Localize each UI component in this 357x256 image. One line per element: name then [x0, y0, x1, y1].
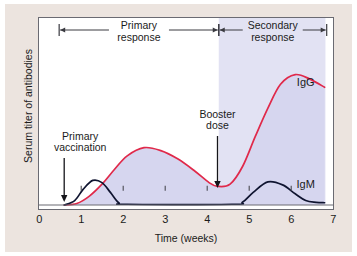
- secondary-phase-label-line2: response: [251, 31, 294, 43]
- booster-dose-label-line2: dose: [206, 119, 229, 131]
- secondary-phase-label-line1: Secondary: [248, 19, 299, 31]
- primary-phase-label-line2: response: [117, 31, 160, 43]
- primary-phase-label-line1: Primary: [121, 19, 158, 31]
- primary-vaccination-arrow-icon: [61, 195, 67, 202]
- primary-vaccination-label-line2: vaccination: [54, 141, 107, 153]
- igg-area: [64, 74, 324, 205]
- chart-canvas: IgGIgMPrimaryresponseSecondaryresponsePr…: [39, 18, 333, 209]
- figure-root: IgGIgMPrimaryresponseSecondaryresponsePr…: [0, 0, 357, 256]
- x-axis-label: Time (weeks): [38, 232, 334, 244]
- igg-series-label: IgG: [297, 76, 315, 88]
- y-axis-label: Serum titer of antibodies: [22, 26, 34, 186]
- igm-series-label: IgM: [297, 178, 315, 190]
- plot-frame: IgGIgMPrimaryresponseSecondaryresponsePr…: [38, 17, 334, 210]
